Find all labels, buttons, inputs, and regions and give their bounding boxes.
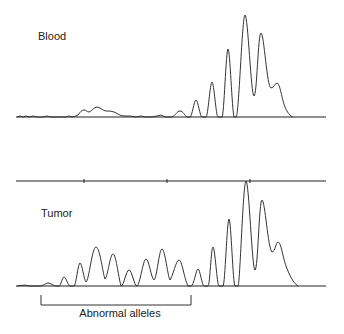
- blood-label: Blood: [38, 30, 66, 42]
- trace-canvas: [0, 0, 344, 334]
- electrophoresis-figure: Blood Tumor Abnormal alleles: [0, 0, 344, 334]
- tumor-panel: [16, 179, 326, 286]
- abnormal-alleles-label: Abnormal alleles: [0, 307, 240, 319]
- abnormal-alleles-bracket: [41, 295, 191, 305]
- tumor-trace: [17, 181, 298, 286]
- tumor-label: Tumor: [41, 207, 72, 219]
